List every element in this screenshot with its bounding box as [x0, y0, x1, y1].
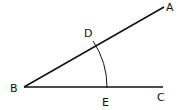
ray-ba [24, 7, 164, 87]
angle-diagram: A B C D E [0, 0, 183, 110]
label-c: C [157, 91, 165, 104]
label-d: D [84, 27, 92, 40]
label-b: B [10, 82, 18, 95]
label-a: A [166, 1, 174, 14]
label-e: E [102, 96, 109, 109]
arc-de [93, 41, 107, 88]
